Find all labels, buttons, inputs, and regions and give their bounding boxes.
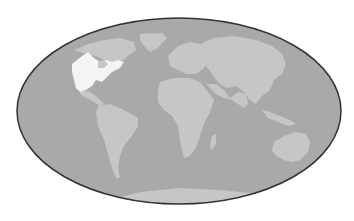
- world-map: [0, 0, 354, 221]
